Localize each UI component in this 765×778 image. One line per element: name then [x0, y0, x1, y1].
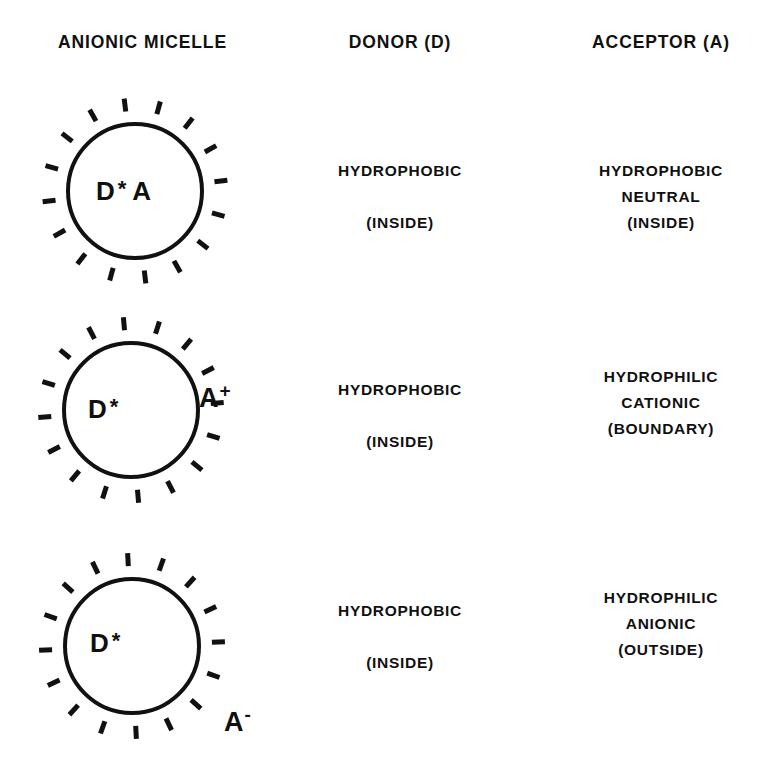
minus-charge-bar	[201, 365, 215, 375]
acceptor-line1-3: HYDROPHILIC	[604, 589, 718, 606]
acceptor-line1-2: HYDROPHILIC	[604, 368, 718, 385]
donor-line2-1	[300, 184, 500, 210]
minus-charge-bar	[69, 470, 81, 483]
acceptor-ion-symbol-3: A	[224, 707, 244, 737]
minus-charge-bar	[90, 561, 100, 575]
minus-charge-bar	[134, 726, 140, 739]
donor-symbol-3: D	[90, 628, 109, 658]
micelle-core-label-3: D*	[90, 628, 123, 659]
donor-line1-2: HYDROPHOBIC	[338, 381, 462, 398]
minus-charge-bar	[86, 326, 96, 340]
donor-line3-1: (INSIDE)	[366, 214, 434, 231]
acceptor-ion-symbol-2: A	[199, 383, 219, 413]
minus-charge-bar	[190, 698, 203, 710]
micelle-figure: ANIONIC MICELLE DONOR (D) ACCEPTOR (A) D…	[0, 0, 765, 778]
minus-charge-bar	[121, 98, 128, 112]
minus-charge-bar	[87, 109, 98, 123]
micelle-core-label-2: D*	[88, 394, 121, 425]
minus-charge-bar	[166, 480, 176, 494]
acceptor-line2-1: NEUTRAL	[622, 188, 701, 205]
acceptor-ion-charge-2: +	[219, 380, 231, 401]
minus-charge-bar	[197, 238, 210, 250]
donor-line3-3: (INSIDE)	[366, 654, 434, 671]
micelle-diagram-3	[29, 543, 235, 749]
minus-charge-bar	[142, 270, 149, 284]
acceptor-line3-2: (BOUNDARY)	[608, 420, 714, 437]
minus-charge-bar	[53, 228, 67, 239]
acceptor-symbol-1: A	[129, 176, 154, 206]
acceptor-ion-label-2: A+	[199, 383, 231, 414]
acceptor-description-3: HYDROPHILIC ANIONIC (OUTSIDE)	[557, 585, 765, 663]
minus-charge-bar	[184, 575, 196, 588]
acceptor-line3-3: (OUTSIDE)	[618, 641, 704, 658]
minus-charge-bar	[156, 557, 165, 571]
minus-charge-bar	[182, 116, 194, 129]
micelle-circle-3	[63, 577, 201, 715]
donor-line1-1: HYDROPHOBIC	[338, 162, 462, 179]
donor-line2-3	[300, 624, 500, 650]
minus-charge-bar	[125, 553, 131, 566]
acceptor-line2-2: CATIONIC	[621, 394, 700, 411]
minus-charge-bar	[203, 604, 217, 614]
minus-charge-bar	[153, 321, 162, 335]
minus-charge-bar	[135, 489, 141, 502]
minus-charge-bar	[207, 432, 221, 441]
minus-charge-bar	[108, 267, 116, 281]
minus-charge-bar	[38, 414, 51, 420]
micelle-core-label-1: D*A	[96, 176, 154, 207]
donor-description-1: HYDROPHOBIC (INSIDE)	[300, 158, 500, 236]
donor-description-3: HYDROPHOBIC (INSIDE)	[300, 598, 500, 676]
minus-charge-bar	[42, 380, 56, 389]
donor-symbol-1: D	[96, 176, 115, 206]
minus-charge-bar	[47, 678, 61, 688]
minus-charge-bar	[154, 101, 162, 115]
minus-charge-bar	[212, 639, 225, 645]
minus-charge-bar	[42, 198, 56, 205]
acceptor-ion-label-3: A-	[224, 707, 251, 738]
excited-state-marker-2: *	[107, 394, 122, 419]
minus-charge-bar	[68, 704, 80, 717]
acceptor-line1-1: HYDROPHOBIC	[599, 162, 723, 179]
acceptor-line2-3: ANIONIC	[626, 615, 696, 632]
acceptor-ion-charge-3: -	[244, 704, 251, 725]
donor-line2-2	[300, 403, 500, 429]
column-header-acceptor: ACCEPTOR (A)	[557, 32, 765, 53]
minus-charge-bar	[47, 445, 61, 455]
minus-charge-bar	[211, 210, 225, 218]
minus-charge-bar	[203, 143, 217, 154]
column-header-anionic-micelle: ANIONIC MICELLE	[0, 32, 285, 53]
minus-charge-bar	[164, 717, 174, 731]
donor-description-2: HYDROPHOBIC (INSIDE)	[300, 377, 500, 455]
column-header-donor: DONOR (D)	[300, 32, 500, 53]
acceptor-line3-1: (INSIDE)	[627, 214, 695, 231]
minus-charge-bar	[76, 253, 88, 266]
minus-charge-bar	[181, 337, 193, 350]
donor-line3-2: (INSIDE)	[366, 433, 434, 450]
minus-charge-bar	[172, 259, 183, 273]
minus-charge-bar	[207, 670, 221, 679]
acceptor-description-2: HYDROPHILIC CATIONIC (BOUNDARY)	[557, 364, 765, 442]
acceptor-description-1: HYDROPHOBIC NEUTRAL (INSIDE)	[557, 158, 765, 236]
minus-charge-bar	[39, 648, 52, 654]
donor-symbol-2: D	[88, 394, 107, 424]
donor-line1-3: HYDROPHOBIC	[338, 602, 462, 619]
minus-charge-bar	[191, 460, 204, 472]
minus-charge-bar	[58, 348, 71, 360]
minus-charge-bar	[99, 721, 108, 735]
minus-charge-bar	[60, 132, 73, 144]
minus-charge-bar	[45, 164, 59, 172]
minus-charge-bar	[61, 582, 74, 594]
minus-charge-bar	[120, 317, 126, 330]
minus-charge-bar	[43, 613, 57, 622]
micelle-circle-2	[62, 341, 200, 479]
excited-state-marker-1: *	[115, 176, 130, 201]
excited-state-marker-3: *	[109, 628, 124, 653]
minus-charge-bar	[101, 486, 110, 500]
minus-charge-bar	[214, 177, 228, 184]
